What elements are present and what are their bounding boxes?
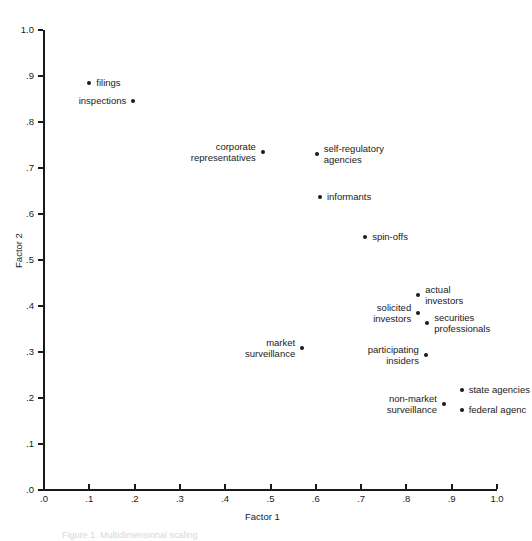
x-tick-mark xyxy=(405,484,407,489)
x-tick-label: .6 xyxy=(301,493,331,504)
data-point[interactable] xyxy=(416,311,420,315)
y-tick-label: .7 xyxy=(4,162,34,173)
data-point-label: spin-offs xyxy=(372,231,408,242)
scatter-plot-figure: .0.1.2.3.4.5.6.7.8.91.0 .0.1.2.3.4.5.6.7… xyxy=(0,0,532,541)
data-point[interactable] xyxy=(416,293,420,297)
y-tick-label: .4 xyxy=(4,300,34,311)
y-tick-mark xyxy=(38,213,43,215)
data-point[interactable] xyxy=(363,235,367,239)
data-point-label: securities professionals xyxy=(434,312,490,334)
y-tick-mark xyxy=(38,443,43,445)
y-tick-label: .2 xyxy=(4,392,34,403)
x-tick-mark xyxy=(270,484,272,489)
x-tick-mark xyxy=(496,484,498,489)
data-point-label: inspections xyxy=(79,95,127,106)
y-tick-mark xyxy=(38,305,43,307)
data-point-label: actual investors xyxy=(425,284,463,306)
data-point[interactable] xyxy=(87,81,91,85)
data-point-label: solicited investors xyxy=(373,302,411,324)
data-point-label: non-market surveillance xyxy=(387,393,437,415)
x-tick-mark xyxy=(88,484,90,489)
y-tick-mark xyxy=(38,121,43,123)
x-tick-mark xyxy=(315,484,317,489)
x-tick-label: .2 xyxy=(120,493,150,504)
data-point[interactable] xyxy=(300,346,304,350)
x-tick-mark xyxy=(360,484,362,489)
y-tick-label: .3 xyxy=(4,346,34,357)
x-tick-label: .4 xyxy=(210,493,240,504)
x-tick-label: .0 xyxy=(29,493,59,504)
y-tick-mark xyxy=(38,259,43,261)
data-point-label: federal agenc xyxy=(469,404,527,415)
y-tick-label: .9 xyxy=(4,70,34,81)
data-point[interactable] xyxy=(442,402,446,406)
x-tick-mark xyxy=(179,484,181,489)
y-axis-line xyxy=(43,30,45,491)
x-tick-mark xyxy=(43,484,45,489)
data-point-label: informants xyxy=(327,191,371,202)
data-point[interactable] xyxy=(131,99,135,103)
data-point[interactable] xyxy=(315,152,319,156)
data-point-label: state agencies xyxy=(469,384,530,395)
y-tick-mark xyxy=(38,29,43,31)
data-point-label: corporate representatives xyxy=(191,141,256,163)
x-axis-line xyxy=(43,489,497,491)
y-tick-label: .8 xyxy=(4,116,34,127)
y-tick-label: .6 xyxy=(4,208,34,219)
x-axis-title: Factor 1 xyxy=(245,511,280,522)
y-tick-label: .1 xyxy=(4,438,34,449)
data-point-label: market surveillance xyxy=(245,337,295,359)
plot-area: .0.1.2.3.4.5.6.7.8.91.0 .0.1.2.3.4.5.6.7… xyxy=(0,0,532,541)
data-point[interactable] xyxy=(460,388,464,392)
data-point[interactable] xyxy=(318,195,322,199)
x-tick-label: .1 xyxy=(74,493,104,504)
figure-caption: Figure 1. Multidimensional scaling xyxy=(62,530,198,540)
data-point[interactable] xyxy=(261,150,265,154)
x-tick-mark xyxy=(451,484,453,489)
y-tick-mark xyxy=(38,167,43,169)
data-point-label: self-regulatory agencies xyxy=(324,143,384,165)
y-tick-mark xyxy=(38,397,43,399)
y-tick-mark xyxy=(38,351,43,353)
x-tick-label: .5 xyxy=(256,493,286,504)
y-axis-title: Factor 2 xyxy=(13,221,24,281)
data-point-label: filings xyxy=(96,77,120,88)
x-tick-mark xyxy=(134,484,136,489)
y-tick-mark xyxy=(38,489,43,491)
y-tick-label: 1.0 xyxy=(4,24,34,35)
x-tick-label: .7 xyxy=(346,493,376,504)
x-tick-label: .9 xyxy=(437,493,467,504)
x-tick-label: .3 xyxy=(165,493,195,504)
x-tick-mark xyxy=(224,484,226,489)
x-tick-label: .8 xyxy=(391,493,421,504)
data-point[interactable] xyxy=(425,321,429,325)
data-point-label: participating insiders xyxy=(368,344,419,366)
x-tick-label: 1.0 xyxy=(482,493,512,504)
data-point[interactable] xyxy=(424,353,428,357)
y-tick-mark xyxy=(38,75,43,77)
data-point[interactable] xyxy=(460,408,464,412)
